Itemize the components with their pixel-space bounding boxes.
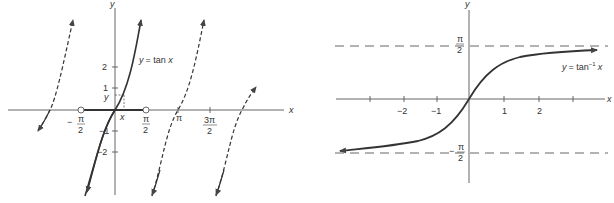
svg-text:2: 2 <box>458 153 463 163</box>
svg-text:2: 2 <box>143 125 148 135</box>
svg-text:−: − <box>449 146 454 156</box>
x-axis-label: x <box>288 105 294 115</box>
x-tick-minus1: −1 <box>431 106 441 116</box>
x-tick-three-half-pi: 3π 2 <box>203 115 217 136</box>
x-axis-label: x <box>606 94 612 104</box>
svg-text:2: 2 <box>457 45 462 55</box>
svg-text:π: π <box>78 114 84 124</box>
svg-text:3π: 3π <box>204 115 215 125</box>
tan-branch-two-pi <box>216 87 256 196</box>
y-tick-2: 2 <box>102 62 107 72</box>
svg-text:2: 2 <box>207 126 212 136</box>
svg-text:−: − <box>67 117 72 127</box>
svg-text:2: 2 <box>78 125 83 135</box>
figure: x y 2 1 −1 −2 − π 2 π 2 <box>0 0 614 203</box>
arctan-curve <box>469 50 597 99</box>
arctan-graph: x y −2 −1 1 2 π 2 − π 2 <box>335 0 612 183</box>
x-tick-2: 2 <box>537 106 542 116</box>
tan-curve-label: y= tan x <box>138 55 173 65</box>
arctan-curve-label: y= tan−1x <box>561 61 603 72</box>
x-tick-minus2: −2 <box>397 106 407 116</box>
mark-x: x <box>119 112 125 122</box>
svg-text:π: π <box>458 142 464 152</box>
y-tick-half-pi: π 2 <box>456 34 464 55</box>
tan-branch-neg-pi <box>38 20 73 130</box>
y-axis-label: y <box>109 0 115 9</box>
x-tick-neg-half-pi: − π 2 <box>67 114 85 135</box>
open-endpoint-left <box>78 107 84 113</box>
svg-text:π: π <box>457 34 463 44</box>
x-tick-1: 1 <box>502 106 507 116</box>
open-endpoint-right <box>143 107 149 113</box>
x-tick-half-pi: π 2 <box>142 114 150 135</box>
y-axis-label: y <box>464 0 470 9</box>
mark-y: y <box>103 92 109 102</box>
svg-text:π: π <box>143 114 149 124</box>
x-tick-pi: π <box>176 113 182 123</box>
y-tick-neg-half-pi: − π 2 <box>449 142 465 163</box>
tan-graph: x y 2 1 −1 −2 − π 2 π 2 <box>8 0 294 196</box>
